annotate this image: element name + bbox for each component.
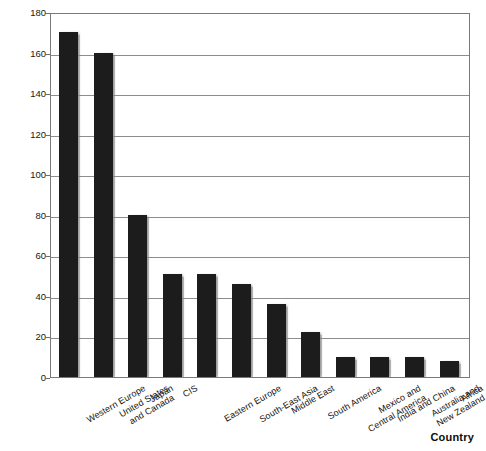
y-tick-label: 0 bbox=[0, 372, 46, 383]
y-tick-label: 100 bbox=[0, 169, 46, 180]
bar bbox=[59, 32, 78, 377]
x-tick-label: Japan bbox=[148, 383, 175, 405]
y-tick-label: 120 bbox=[0, 129, 46, 140]
y-tick-label: 80 bbox=[0, 210, 46, 221]
bar bbox=[336, 357, 355, 377]
plot-area bbox=[50, 13, 470, 378]
x-tick-label: Australia and New Zealand bbox=[429, 383, 486, 428]
y-tick-mark bbox=[45, 337, 50, 338]
y-tick-label: 20 bbox=[0, 331, 46, 342]
y-tick-label: 40 bbox=[0, 291, 46, 302]
y-tick-mark bbox=[45, 216, 50, 217]
y-tick-mark bbox=[45, 135, 50, 136]
y-tick-label: 180 bbox=[0, 7, 46, 18]
x-axis-title: Country bbox=[430, 431, 474, 443]
y-tick-mark bbox=[45, 175, 50, 176]
x-tick-label: Middle East bbox=[290, 383, 337, 416]
bar bbox=[94, 53, 113, 377]
y-tick-mark bbox=[45, 378, 50, 379]
x-tick-label: CIS bbox=[181, 383, 200, 400]
bar bbox=[197, 274, 216, 377]
x-tick-label: South America bbox=[326, 383, 383, 422]
y-tick-label: 160 bbox=[0, 48, 46, 59]
y-tick-mark bbox=[45, 256, 50, 257]
bar bbox=[128, 215, 147, 377]
x-tick-label: Western Europe bbox=[84, 383, 147, 425]
x-tick-label: Eastern Europe bbox=[222, 383, 283, 424]
y-tick-label: 140 bbox=[0, 88, 46, 99]
bar bbox=[440, 361, 459, 377]
y-tick-mark bbox=[45, 13, 50, 14]
x-tick-label: United States and Canada bbox=[118, 383, 176, 429]
x-tick-label: India and China bbox=[396, 383, 457, 424]
x-tick-label: Africa bbox=[459, 383, 485, 404]
y-tick-mark bbox=[45, 54, 50, 55]
x-tick-label: Mexico and Central America bbox=[361, 383, 428, 434]
bar bbox=[301, 332, 320, 377]
x-tick-label: South-East Asia bbox=[257, 383, 319, 425]
bar bbox=[370, 357, 389, 377]
y-tick-mark bbox=[45, 297, 50, 298]
bar bbox=[405, 357, 424, 377]
y-tick-mark bbox=[45, 94, 50, 95]
bar bbox=[232, 284, 251, 377]
bar bbox=[163, 274, 182, 377]
y-tick-label: 60 bbox=[0, 250, 46, 261]
bar bbox=[267, 304, 286, 377]
